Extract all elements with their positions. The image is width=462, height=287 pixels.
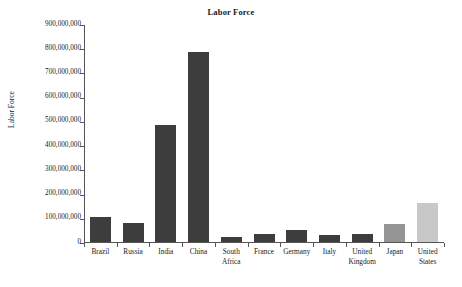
y-axis-line xyxy=(84,25,85,243)
y-tick-label: 900,000,000 xyxy=(45,20,81,28)
x-tick-label: Russia xyxy=(117,247,150,257)
y-tick-label: 400,000,000 xyxy=(45,141,81,149)
chart-title: Labor Force xyxy=(0,7,462,17)
x-tick-label: United States xyxy=(411,247,444,266)
bar[interactable] xyxy=(286,230,307,242)
x-axis-line xyxy=(84,242,444,243)
y-tick-label: 200,000,000 xyxy=(45,189,81,197)
y-tick-label: 500,000,000 xyxy=(45,116,81,124)
x-tick-label: Germany xyxy=(280,247,313,257)
x-tick-label: China xyxy=(182,247,215,257)
x-tick-label: France xyxy=(248,247,281,257)
bar[interactable] xyxy=(188,52,209,242)
y-tick-label: 700,000,000 xyxy=(45,68,81,76)
bar[interactable] xyxy=(352,234,373,242)
bar[interactable] xyxy=(123,223,144,242)
bar[interactable] xyxy=(319,235,340,243)
x-tick-label: Italy xyxy=(313,247,346,257)
y-tick-label: 800,000,000 xyxy=(45,44,81,52)
y-tick-label: 600,000,000 xyxy=(45,92,81,100)
y-tick-label: 100,000,000 xyxy=(45,213,81,221)
bar[interactable] xyxy=(254,234,275,242)
bar[interactable] xyxy=(384,224,405,242)
bar[interactable] xyxy=(155,125,176,242)
x-tick-label: India xyxy=(149,247,182,257)
y-tick-label: 300,000,000 xyxy=(45,165,81,173)
bar[interactable] xyxy=(90,217,111,242)
x-tick-label: South Africa xyxy=(215,247,248,266)
plot-area: 0100,000,000200,000,000300,000,000400,00… xyxy=(84,25,444,243)
bar[interactable] xyxy=(417,203,438,242)
y-axis-title: Labor Force xyxy=(7,80,16,140)
x-tick-label: Japan xyxy=(379,247,412,257)
y-tick-label: 0 xyxy=(77,238,81,246)
x-tick-mark xyxy=(444,243,445,247)
x-tick-label: United Kingdom xyxy=(346,247,379,266)
chart-figure: Labor Force Labor Force 0100,000,000200,… xyxy=(0,0,462,287)
x-tick-label: Brazil xyxy=(84,247,117,257)
bar[interactable] xyxy=(221,237,242,242)
